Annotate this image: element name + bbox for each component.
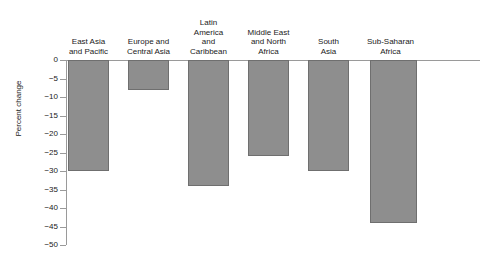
y-tick-label: −10: [4, 93, 58, 101]
category-label: South Asia: [299, 37, 358, 56]
y-tick-label: −15: [4, 112, 58, 120]
y-tick-label-wrap: −15: [0, 116, 58, 117]
y-tick-label: −5: [4, 75, 58, 83]
y-tick-mark: [60, 190, 66, 191]
y-tick-mark: [60, 245, 66, 246]
category-label: Europe and Central Asia: [119, 37, 178, 56]
y-tick-label-wrap: −5: [0, 79, 58, 80]
y-tick-mark: [60, 79, 66, 80]
y-tick-label-wrap: −45: [0, 227, 58, 228]
y-tick-label: −30: [4, 167, 58, 175]
y-tick-label-wrap: 0: [0, 60, 58, 61]
y-tick-label-wrap: −20: [0, 134, 58, 135]
y-tick-label: −25: [4, 149, 58, 157]
bar: [68, 60, 109, 171]
y-tick-mark: [60, 60, 66, 61]
category-label: Sub-Saharan Africa: [361, 37, 420, 56]
bar: [370, 60, 417, 223]
y-tick-mark: [60, 227, 66, 228]
bar: [128, 60, 169, 90]
y-tick-mark: [60, 116, 66, 117]
y-tick-label: 0: [4, 56, 58, 64]
y-tick-label-wrap: −40: [0, 208, 58, 209]
category-label: East Asia and Pacific: [59, 37, 118, 56]
bar: [248, 60, 289, 156]
y-tick-mark: [60, 171, 66, 172]
category-label: Latin America and Caribbean: [179, 18, 238, 56]
y-axis-spine: [66, 60, 67, 245]
y-tick-label: −20: [4, 130, 58, 138]
y-tick-label-wrap: −25: [0, 153, 58, 154]
y-tick-label: −40: [4, 204, 58, 212]
y-tick-label: −45: [4, 223, 58, 231]
y-tick-label-wrap: −35: [0, 190, 58, 191]
bar: [188, 60, 229, 186]
y-tick-label-wrap: −30: [0, 171, 58, 172]
category-label: Middle East and North Africa: [239, 28, 298, 57]
bar-chart: Percent change 0−5−10−15−20−25−30−35−40−…: [0, 0, 488, 266]
y-tick-label: −35: [4, 186, 58, 194]
y-tick-mark: [60, 208, 66, 209]
y-tick-mark: [60, 134, 66, 135]
y-tick-label-wrap: −50: [0, 245, 58, 246]
y-tick-label: −50: [4, 241, 58, 249]
y-tick-mark: [60, 97, 66, 98]
y-tick-mark: [60, 153, 66, 154]
y-tick-label-wrap: −10: [0, 97, 58, 98]
bar: [308, 60, 349, 171]
